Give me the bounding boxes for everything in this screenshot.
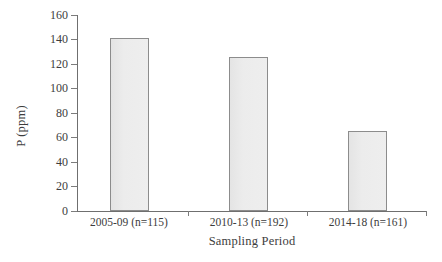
y-tick-mark (71, 211, 77, 212)
y-tick-label: 40 (6, 156, 68, 168)
y-tick-mark (71, 162, 77, 163)
y-tick-label-wrap: 40 (0, 156, 68, 168)
y-tick-label: 140 (6, 33, 68, 45)
y-tick-label: 0 (6, 205, 68, 217)
y-tick-label-wrap: 0 (0, 205, 68, 217)
x-axis-line (77, 211, 427, 212)
y-tick-label: 160 (6, 9, 68, 21)
y-tick-label-wrap: 60 (0, 131, 68, 143)
y-tick-mark (71, 88, 77, 89)
y-tick-label: 80 (6, 107, 68, 119)
y-tick-label-wrap: 80 (0, 107, 68, 119)
y-tick-mark (71, 186, 77, 187)
y-axis-line (77, 15, 78, 212)
y-tick-label: 100 (6, 82, 68, 94)
x-tick-label-2014-18: 2014-18 (n=161) (308, 215, 428, 229)
bar-2010-13 (229, 57, 268, 211)
y-tick-label-wrap: 120 (0, 58, 68, 70)
x-tick-label-2005-09: 2005-09 (n=115) (69, 215, 189, 229)
y-tick-label-wrap: 160 (0, 9, 68, 21)
x-axis-title: Sampling Period (77, 234, 427, 249)
bar-chart: P (ppm) 160 140 120 100 80 60 40 20 0 (0, 0, 442, 262)
y-tick-label-wrap: 140 (0, 33, 68, 45)
bar-2005-09 (110, 38, 149, 211)
y-tick-label: 120 (6, 58, 68, 70)
y-tick-label-wrap: 100 (0, 82, 68, 94)
y-tick-mark (71, 137, 77, 138)
bar-2014-18 (348, 131, 387, 211)
y-tick-mark (71, 64, 77, 65)
x-tick-label-2010-13: 2010-13 (n=192) (189, 215, 309, 229)
y-tick-mark (71, 39, 77, 40)
y-tick-label-wrap: 20 (0, 180, 68, 192)
y-tick-mark (71, 113, 77, 114)
y-tick-label: 60 (6, 131, 68, 143)
y-tick-label: 20 (6, 180, 68, 192)
y-tick-mark (71, 15, 77, 16)
